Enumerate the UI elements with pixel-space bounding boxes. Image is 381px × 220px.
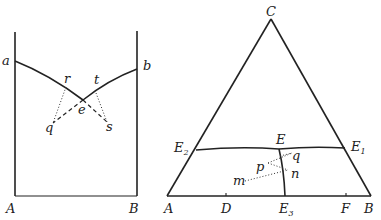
label-m: m [233,173,245,188]
curve-E-E3 [279,149,285,196]
label-a: a [2,53,10,68]
label-E: E [275,132,286,147]
label-q: q [292,148,300,163]
label-D: D [220,201,232,216]
ternary-diagram: C E E2 E1 q p n m A D E3 F B [163,4,374,218]
label-n: n [291,166,299,181]
label-r: r [64,71,71,86]
side-C-B [271,19,371,196]
dotted-m-n [245,170,288,181]
dotted-p-n [268,163,288,170]
binary-diagram: a b r t e q s A B [2,31,151,216]
label-E2: E2 [173,140,189,157]
label-s: s [106,119,113,134]
label-e: e [78,102,86,117]
dashed-e-s [83,100,107,122]
label-t: t [94,72,100,87]
phase-diagrams: a b r t e q s A B C E E2 E1 q p n m A D … [0,0,381,220]
label-b: b [143,58,151,73]
label-E1: E1 [350,139,366,156]
label-B: B [128,201,139,216]
label-E3: E3 [278,201,294,218]
label-p: p [256,159,265,174]
curve-E2-E-E1 [196,147,345,150]
label-A: A [163,201,173,216]
label-B: B [363,201,374,216]
label-A: A [5,201,15,216]
label-q: q [45,120,53,135]
curve-b-e [83,69,137,100]
label-C: C [266,4,276,19]
dotted-t-s [96,93,107,122]
curve-a-e [15,61,83,100]
label-F: F [340,201,351,216]
